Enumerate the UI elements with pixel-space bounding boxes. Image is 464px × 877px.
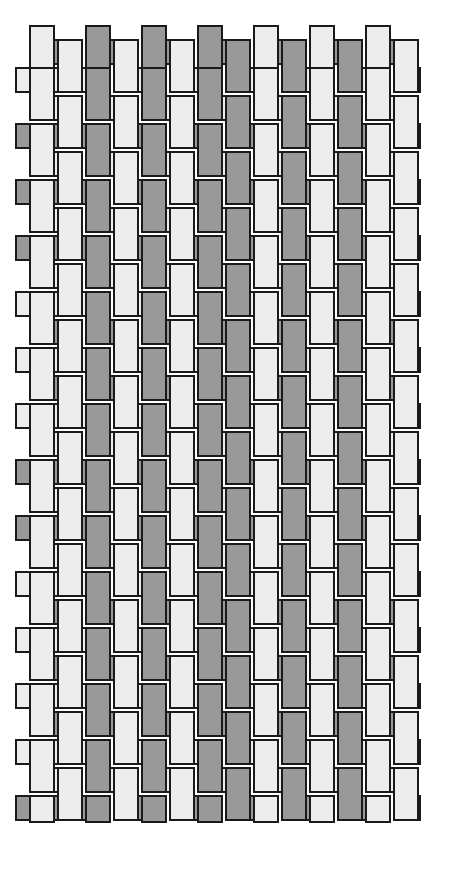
warp-strip — [114, 432, 138, 484]
warp-strip — [394, 712, 418, 764]
weave-diagram — [0, 0, 464, 877]
warp-strip — [198, 292, 222, 344]
warp-strip — [170, 488, 194, 540]
warp-strip — [86, 404, 110, 456]
warp-strip — [254, 684, 278, 736]
warp-strip — [170, 208, 194, 260]
warp-strip — [310, 124, 334, 176]
warp-strip — [170, 40, 194, 92]
warp-strip — [394, 376, 418, 428]
warp-strip — [58, 152, 82, 204]
warp-strip — [338, 656, 362, 708]
warp-strip — [198, 740, 222, 792]
warp-strip — [58, 656, 82, 708]
warp-strip — [198, 628, 222, 680]
warp-strip — [226, 432, 250, 484]
warp-strip — [30, 684, 54, 736]
warp-strip — [254, 460, 278, 512]
warp-strip — [114, 376, 138, 428]
warp-strip — [226, 656, 250, 708]
warp-strip — [310, 684, 334, 736]
warp-strip — [254, 628, 278, 680]
warp-strip — [338, 40, 362, 92]
warp-strip — [30, 572, 54, 624]
warp-strip — [366, 348, 390, 400]
warp-strip — [142, 628, 166, 680]
warp-strip — [366, 628, 390, 680]
warp-strip — [58, 264, 82, 316]
warp-strip — [338, 600, 362, 652]
warp-strip — [198, 404, 222, 456]
warp-strip — [366, 516, 390, 568]
warp-strip — [86, 572, 110, 624]
warp-strip — [198, 180, 222, 232]
warp-strip — [30, 740, 54, 792]
warp-strip — [338, 208, 362, 260]
warp-strip — [58, 208, 82, 260]
warp-strip — [254, 236, 278, 288]
warp-strip — [198, 516, 222, 568]
warp-strip — [142, 68, 166, 120]
warp-strip — [394, 656, 418, 708]
warp-strip — [30, 180, 54, 232]
warp-strip — [226, 600, 250, 652]
warp-strip — [338, 320, 362, 372]
warp-strip — [30, 796, 54, 822]
warp-strip — [198, 572, 222, 624]
warp-strip — [198, 236, 222, 288]
warp-strip — [226, 264, 250, 316]
warp-strip — [366, 684, 390, 736]
warp-strip — [254, 740, 278, 792]
warp-strip — [282, 96, 306, 148]
warp-strip — [282, 264, 306, 316]
warp-strip — [114, 712, 138, 764]
warp-strip — [170, 152, 194, 204]
warp-strip — [114, 40, 138, 92]
warp-strip — [170, 768, 194, 820]
warp-strip — [254, 292, 278, 344]
warp-strip — [86, 684, 110, 736]
figure-page: Color and W — [0, 0, 464, 877]
warp-strip — [282, 488, 306, 540]
warp-strip — [142, 460, 166, 512]
warp-strip — [282, 376, 306, 428]
warp-strip — [30, 292, 54, 344]
warp-strip — [114, 208, 138, 260]
warp-strip — [30, 348, 54, 400]
weave-canvas — [0, 0, 464, 877]
warp-strip — [282, 656, 306, 708]
warp-strip — [254, 516, 278, 568]
warp-strip — [114, 96, 138, 148]
warp-strip — [282, 40, 306, 92]
warp-strip — [338, 152, 362, 204]
warp-strip — [338, 544, 362, 596]
warp-strip — [142, 684, 166, 736]
warp-strip — [170, 264, 194, 316]
warp-strip — [198, 460, 222, 512]
warp-strip — [282, 768, 306, 820]
warp-strip — [366, 740, 390, 792]
warp-strip — [254, 348, 278, 400]
warp-strip — [170, 600, 194, 652]
warp-strip — [394, 768, 418, 820]
warp-strip — [30, 516, 54, 568]
warp-strip — [310, 628, 334, 680]
warp-strip — [226, 712, 250, 764]
warp-strip — [394, 40, 418, 92]
warp-strip — [394, 488, 418, 540]
warp-strip — [310, 68, 334, 120]
warp-strip — [226, 152, 250, 204]
warp-strip — [226, 376, 250, 428]
warp-strip — [114, 768, 138, 820]
warp-strip — [170, 376, 194, 428]
warp-strip — [114, 656, 138, 708]
warp-strip — [114, 320, 138, 372]
warp-strip — [170, 712, 194, 764]
warp-strip — [142, 740, 166, 792]
warp-strip — [58, 96, 82, 148]
warp-strip — [30, 68, 54, 120]
warp-strip — [310, 460, 334, 512]
warp-strip — [254, 180, 278, 232]
warp-strip — [142, 796, 166, 822]
warp-strip — [142, 124, 166, 176]
